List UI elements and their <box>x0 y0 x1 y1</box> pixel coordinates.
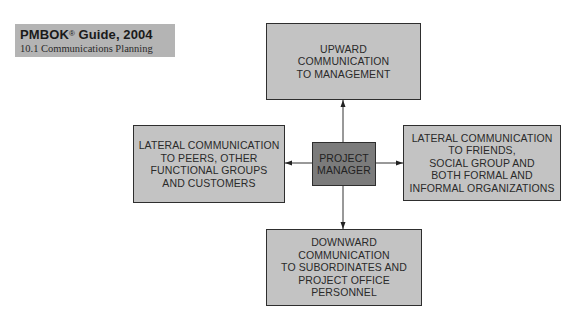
project-manager-box: PROJECT MANAGER <box>312 142 376 186</box>
upward-communication-label: UPWARD COMMUNICATION TO MANAGEMENT <box>297 43 391 81</box>
lateral-peers-box: LATERAL COMMUNICATION TO PEERS, OTHER FU… <box>133 125 285 203</box>
lateral-peers-label: LATERAL COMMUNICATION TO PEERS, OTHER FU… <box>139 139 280 189</box>
lateral-friends-label: LATERAL COMMUNICATION TO FRIENDS, SOCIAL… <box>409 132 554 195</box>
project-manager-label: PROJECT MANAGER <box>317 152 371 177</box>
downward-communication-label: DOWNWARD COMMUNICATION TO SUBORDINATES A… <box>281 236 407 299</box>
upward-communication-box: UPWARD COMMUNICATION TO MANAGEMENT <box>266 23 421 100</box>
downward-communication-box: DOWNWARD COMMUNICATION TO SUBORDINATES A… <box>266 229 422 306</box>
lateral-friends-box: LATERAL COMMUNICATION TO FRIENDS, SOCIAL… <box>403 125 561 201</box>
